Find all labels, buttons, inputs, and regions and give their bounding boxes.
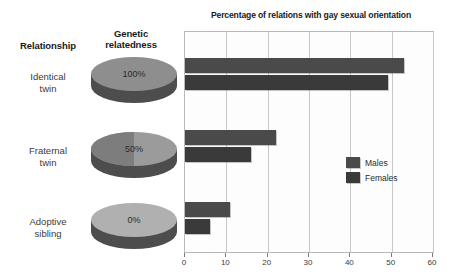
axis-tick-label: 40: [337, 258, 361, 267]
row-label-line1: Fraternal: [29, 145, 67, 156]
relatedness-disc-adoptive-sibling: 0%: [90, 202, 178, 250]
row-label-adoptive-sibling: Adoptive sibling: [6, 216, 90, 239]
figure: Relationship Genetic relatedness Identic…: [0, 0, 457, 277]
legend-label-males: Males: [365, 158, 388, 168]
row-label-line2: twin: [40, 157, 57, 168]
disc-graphic: [90, 56, 178, 104]
row-label-line1: Identical: [30, 71, 65, 82]
plot-inner: [185, 32, 433, 252]
legend-swatch-females: [346, 172, 360, 183]
row-label-line1: Adoptive: [30, 216, 67, 227]
row-label-identical-twin: Identical twin: [6, 71, 90, 94]
legend: Males Females: [346, 157, 398, 187]
axis-tick: [349, 253, 350, 257]
bar-females-identical-twin: [185, 75, 388, 90]
disc-graphic: [90, 202, 178, 250]
bar-males-adoptive-sibling: [185, 202, 230, 217]
legend-swatch-males: [346, 157, 360, 168]
bar-females-fraternal-twin: [185, 147, 251, 162]
relatedness-header-line2: relatedness: [105, 39, 157, 50]
x-axis: 0102030405060: [184, 253, 434, 275]
relatedness-header-line1: Genetic: [114, 28, 148, 39]
column-header-relationship: Relationship: [8, 40, 88, 51]
row-label-line2: twin: [40, 83, 57, 94]
chart-title: Percentage of relations with gay sexual …: [180, 10, 442, 20]
row-label-fraternal-twin: Fraternal twin: [6, 145, 90, 168]
disc-graphic: [90, 131, 178, 179]
row-label-line2: sibling: [35, 228, 62, 239]
axis-tick: [308, 253, 309, 257]
axis-tick-label: 20: [255, 258, 279, 267]
bar-females-adoptive-sibling: [185, 219, 210, 234]
gridline: [433, 32, 434, 252]
axis-tick: [225, 253, 226, 257]
axis-tick-label: 0: [172, 258, 196, 267]
bar-males-identical-twin: [185, 58, 404, 73]
axis-tick-label: 50: [379, 258, 403, 267]
relatedness-disc-fraternal-twin: 50%: [90, 131, 178, 179]
axis-tick-label: 30: [296, 258, 320, 267]
axis-tick: [391, 253, 392, 257]
plot-area: [184, 31, 434, 253]
axis-tick-label: 10: [213, 258, 237, 267]
legend-label-females: Females: [365, 173, 398, 183]
axis-tick: [432, 253, 433, 257]
legend-item-males: Males: [346, 157, 398, 168]
axis-tick: [184, 253, 185, 257]
bar-males-fraternal-twin: [185, 130, 276, 145]
relatedness-disc-identical-twin: 100%: [90, 56, 178, 104]
axis-tick: [267, 253, 268, 257]
axis-tick-label: 60: [420, 258, 444, 267]
legend-item-females: Females: [346, 172, 398, 183]
column-header-genetic-relatedness: Genetic relatedness: [86, 28, 176, 50]
